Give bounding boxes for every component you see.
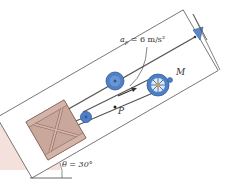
angle-label: θ = 30° (62, 160, 93, 169)
motor-label: M (176, 67, 185, 77)
incline-plane (0, 10, 218, 178)
upper-pulley (106, 72, 124, 90)
lower-pulley (81, 112, 92, 123)
acceleration-label: aP = 6 m/s² (120, 35, 165, 46)
point-p-label: P (118, 106, 124, 116)
diagram-canvas (0, 0, 233, 191)
point-p-marker (114, 106, 117, 109)
